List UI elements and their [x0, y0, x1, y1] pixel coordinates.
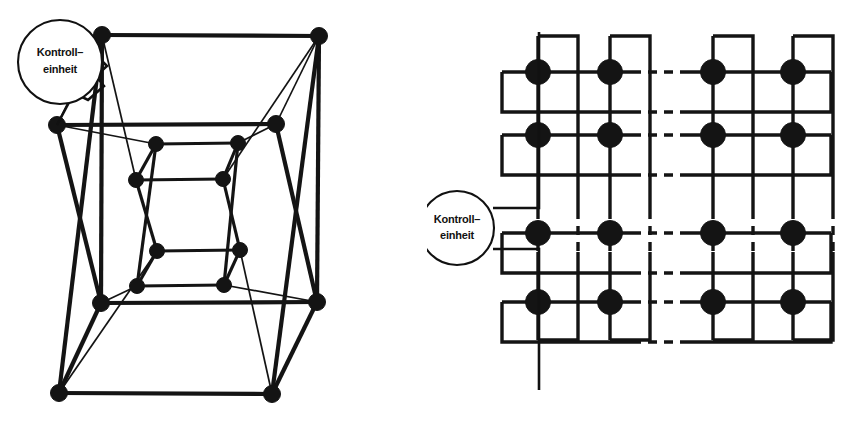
torus-control-unit-leader-bottom	[493, 249, 539, 390]
torus-control-unit-leader-top	[493, 32, 539, 208]
hypercube-node[interactable]	[231, 136, 246, 151]
torus-node[interactable]	[701, 221, 726, 246]
torus-node[interactable]	[781, 290, 806, 315]
torus-node[interactable]	[701, 290, 726, 315]
hypercube-node[interactable]	[130, 279, 145, 294]
hypercube-topology-diagram: Kontroll– einheit	[0, 0, 427, 422]
hypercube-edge	[136, 179, 223, 180]
hypercube-node[interactable]	[264, 386, 281, 403]
hypercube-node[interactable]	[149, 137, 164, 152]
hypercube-node[interactable]	[268, 116, 285, 133]
hypercube-edge	[272, 36, 319, 394]
torus-node[interactable]	[781, 60, 806, 85]
hypercube-node[interactable]	[217, 278, 232, 293]
figure-root: Kontroll– einheit Kontroll– einheit	[0, 0, 854, 422]
torus-node[interactable]	[598, 290, 623, 315]
torus-node[interactable]	[701, 123, 726, 148]
hypercube-control-unit-label-line1: Kontroll–	[37, 46, 84, 58]
torus-node[interactable]	[598, 60, 623, 85]
hypercube-control-unit-label-line2: einheit	[43, 63, 78, 75]
hypercube-node[interactable]	[129, 173, 144, 188]
hypercube-edge	[240, 250, 272, 394]
hypercube-edge	[101, 35, 102, 303]
hypercube-edge	[102, 35, 136, 180]
torus-nodes	[526, 60, 806, 315]
torus-topology-diagram: Kontroll– einheit	[427, 0, 854, 422]
torus-node[interactable]	[781, 221, 806, 246]
hypercube-node[interactable]	[233, 243, 248, 258]
hypercube-edge	[137, 144, 156, 286]
hypercube-node[interactable]	[311, 28, 328, 45]
torus-node[interactable]	[598, 123, 623, 148]
torus-control-unit-label-line2: einheit	[440, 229, 475, 241]
hypercube-edge	[224, 285, 317, 302]
hypercube-node[interactable]	[51, 385, 68, 402]
hypercube-edge	[59, 393, 272, 394]
hypercube-edge	[137, 285, 224, 286]
torus-node[interactable]	[598, 221, 623, 246]
hypercube-edge	[224, 143, 238, 285]
hypercube-node[interactable]	[309, 294, 326, 311]
hypercube-edge	[317, 36, 319, 302]
torus-node[interactable]	[781, 123, 806, 148]
torus-node[interactable]	[701, 60, 726, 85]
hypercube-node[interactable]	[150, 244, 165, 259]
hypercube-node[interactable]	[216, 172, 231, 187]
hypercube-edge	[57, 125, 156, 144]
hypercube-edge	[156, 143, 238, 144]
hypercube-node[interactable]	[93, 295, 110, 312]
hypercube-edge	[102, 35, 319, 36]
torus-node[interactable]	[526, 221, 551, 246]
torus-control-unit-label-line1: Kontroll–	[434, 213, 481, 225]
